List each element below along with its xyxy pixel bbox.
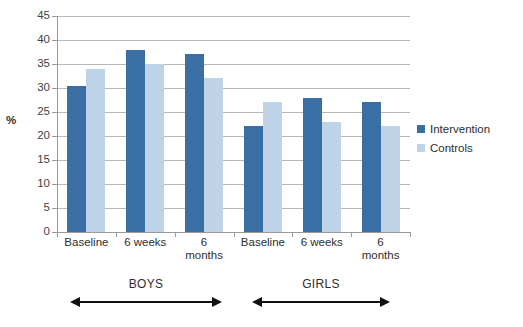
y-axis-tick-label: 15 (24, 154, 50, 165)
bar-controls-3 (263, 102, 282, 232)
bar-intervention-3 (244, 126, 263, 232)
y-axis-tick-label: 10 (24, 178, 50, 189)
y-axis-tick-label: 40 (24, 34, 50, 45)
bar-controls-4 (322, 122, 341, 232)
y-axis-tick-label: 30 (24, 82, 50, 93)
x-axis-category-labels: Baseline6 weeks6monthsBaseline6 weeks6mo… (57, 236, 410, 276)
x-category-label-line1: 6 (345, 236, 416, 249)
bars-layer (57, 16, 410, 232)
legend-label: Intervention (430, 123, 490, 135)
y-axis-tick-label: 45 (24, 10, 50, 21)
bar-intervention-2 (185, 54, 204, 232)
bar-controls-0 (86, 69, 105, 232)
x-category-label-line2: months (169, 249, 240, 262)
group-range-arrow-boys (70, 294, 222, 310)
bar-intervention-1 (126, 50, 145, 232)
x-category-label: 6months (345, 236, 416, 262)
legend-label: Controls (430, 142, 473, 154)
y-axis-labels: 454035302520151050 (14, 0, 50, 327)
legend-swatch-icon (417, 125, 425, 133)
group-range-arrow-girls (252, 294, 390, 310)
y-axis-tick-label: 35 (24, 58, 50, 69)
chart-legend: InterventionControls (417, 119, 521, 157)
bar-intervention-5 (362, 102, 381, 232)
y-axis-tick-label: 0 (24, 226, 50, 237)
bar-chart: % 454035302520151050 Baseline6 weeks6mon… (0, 0, 523, 327)
bar-controls-5 (381, 126, 400, 232)
bar-intervention-0 (67, 86, 86, 232)
bar-controls-1 (145, 64, 164, 232)
y-axis-tick-label: 20 (24, 130, 50, 141)
group-label-girls: GIRLS (271, 277, 371, 291)
legend-item[interactable]: Intervention (417, 119, 521, 138)
y-axis-tick-label: 25 (24, 106, 50, 117)
bar-intervention-4 (303, 98, 322, 232)
x-category-label-line2: months (345, 249, 416, 262)
legend-item[interactable]: Controls (417, 138, 521, 157)
chart-title-remnant (150, 0, 440, 4)
y-axis-tick-label: 5 (24, 202, 50, 213)
legend-swatch-icon (417, 144, 425, 152)
bar-controls-2 (204, 78, 223, 232)
group-label-boys: BOYS (96, 277, 196, 291)
